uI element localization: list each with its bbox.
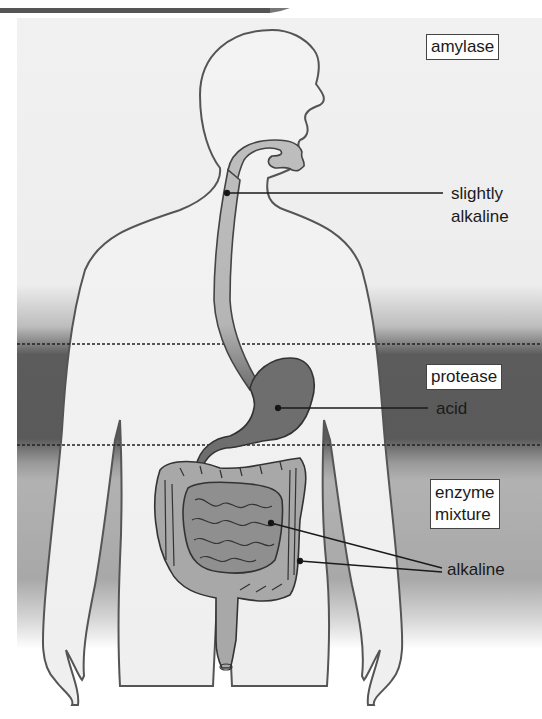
ph-label-alkaline-bottom: alkaline [447,559,505,580]
enzyme-label-mixture-line2: mixture [435,504,495,526]
ph-label-slightly: slightly [451,183,503,204]
enzyme-label-mixture: enzyme mixture [430,479,500,529]
small-intestine [183,482,282,573]
digestive-system-diagram [0,0,542,719]
enzyme-label-amylase: amylase [426,34,499,60]
ph-label-alkaline-top: alkaline [451,206,509,227]
enzyme-label-mixture-line1: enzyme [435,482,495,504]
enzyme-label-protease: protease [426,364,502,390]
ph-label-acid: acid [436,398,467,419]
